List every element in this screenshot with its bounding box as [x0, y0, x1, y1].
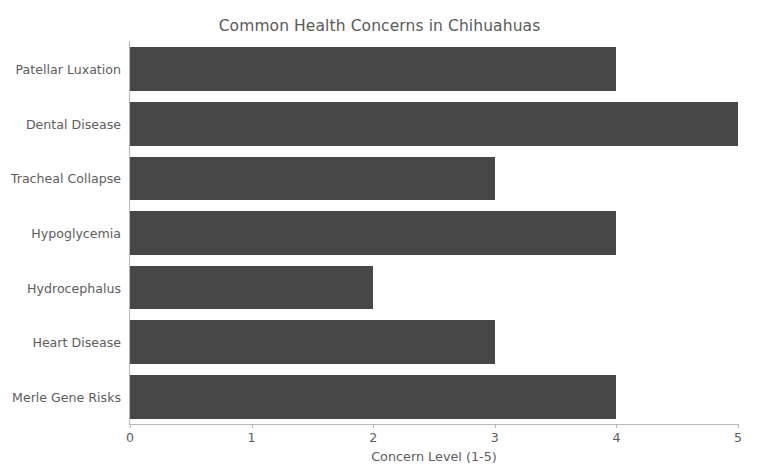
- x-axis-tick: [495, 424, 496, 428]
- x-axis-tick-label: 2: [369, 430, 377, 445]
- bar: [130, 157, 495, 201]
- x-axis-tick: [130, 424, 131, 428]
- plot-area: [130, 42, 738, 424]
- y-axis-tick-label: Heart Disease: [32, 335, 121, 350]
- x-axis-tick-label: 5: [734, 430, 742, 445]
- y-axis-tick-labels: Patellar LuxationDental DiseaseTracheal …: [0, 42, 121, 424]
- bar: [130, 375, 616, 419]
- chart-figure: Common Health Concerns in Chihuahuas Pat…: [0, 0, 759, 473]
- y-axis-tick-label: Tracheal Collapse: [11, 171, 121, 186]
- y-axis-tick-label: Hydrocephalus: [27, 280, 121, 295]
- x-axis-label: Concern Level (1-5): [130, 449, 738, 464]
- x-axis-tick-label: 1: [248, 430, 256, 445]
- bar: [130, 47, 616, 91]
- x-axis-tick-label: 3: [491, 430, 499, 445]
- x-axis-tick: [738, 424, 739, 428]
- x-axis-tick: [373, 424, 374, 428]
- y-axis-tick-label: Hypoglycemia: [31, 226, 121, 241]
- y-axis-tick-label: Merle Gene Risks: [12, 389, 121, 404]
- x-axis-tick: [616, 424, 617, 428]
- x-axis-tick-label: 0: [126, 430, 134, 445]
- chart-title: Common Health Concerns in Chihuahuas: [0, 17, 759, 35]
- y-axis-tick-label: Dental Disease: [26, 116, 121, 131]
- x-axis-line: [129, 424, 739, 425]
- y-axis-tick-label: Patellar Luxation: [16, 62, 121, 77]
- bar: [130, 320, 495, 364]
- bar: [130, 102, 738, 146]
- x-axis-tick: [252, 424, 253, 428]
- x-axis-tick-label: 4: [612, 430, 620, 445]
- bar: [130, 266, 373, 310]
- bar: [130, 211, 616, 255]
